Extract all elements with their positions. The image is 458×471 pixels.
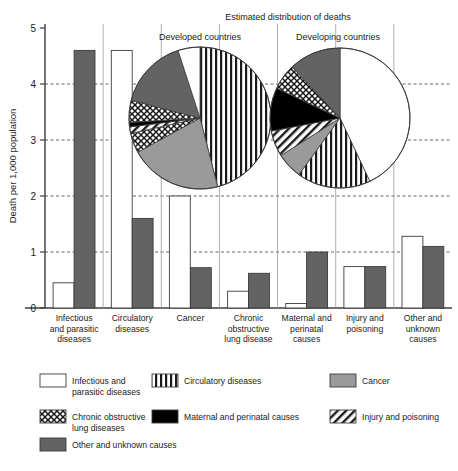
bar-developed [286,304,307,309]
category-label: causes [293,334,320,344]
legend-swatch [40,410,66,423]
legend-label: Cancer [362,376,390,386]
category-label: poisoning [346,324,383,334]
category-label: obstructive [228,324,270,334]
chart-title: Estimated distribution of deaths [225,12,351,22]
legend: Infectious andparasitic diseasesCirculat… [40,374,439,451]
category-label: Cancer [177,313,205,323]
bar-developing [190,268,211,308]
pie-title-developing: Developing countries [296,32,381,42]
category-label: perinatal [290,324,323,334]
category-label: causes [409,334,436,344]
legend-label: Chronic obstructive [72,412,146,422]
category-label: and parasitic [50,324,99,334]
y-tick-label-1: 1 [30,247,36,258]
y-tick-label-4: 4 [30,79,36,90]
bar-developing [423,246,444,308]
bar-developed [402,236,423,308]
bar-developed [111,50,132,308]
category-label: unknown [406,324,441,334]
category-label: Other and [404,313,442,323]
bar-developing [307,252,328,308]
legend-swatch [152,410,178,423]
legend-swatch [330,374,356,387]
category-labels: Infectiousand parasiticdiseasesCirculato… [50,313,442,344]
y-axis-title: Death per 1,000 population [7,109,18,224]
legend-label: lung diseases [72,423,125,433]
legend-swatch [40,374,66,387]
y-tick-label-2: 2 [30,191,36,202]
legend-swatch [152,374,178,387]
y-tick-label-5: 5 [30,23,36,34]
chart-svg: 5 4 3 2 1 0 Death per 1,000 population I… [0,0,458,471]
y-axis-ticks [40,28,45,308]
bar-developing [74,50,95,308]
bar-developing [132,218,153,308]
pie-title-developed: Developed countries [159,32,242,42]
legend-swatch [40,438,66,451]
legend-label: Circulatory diseases [184,376,261,386]
category-label: diseases [115,324,149,334]
legend-label: parasitic diseases [72,387,140,397]
legend-label: Infectious and [72,376,126,386]
chart-figure: 5 4 3 2 1 0 Death per 1,000 population I… [0,0,458,471]
category-label: Chronic [234,313,264,323]
bar-developing [365,267,386,308]
legend-label: Other and unknown causes [72,440,177,450]
bar-developed [228,291,249,308]
category-label: diseases [57,334,91,344]
legend-label: Maternal and perinatal causes [184,412,299,422]
y-tick-label-3: 3 [30,135,36,146]
category-label: Injury and [346,313,384,323]
legend-swatch [330,410,356,423]
category-label: Circulatory [112,313,154,323]
category-label: lung disease [224,334,272,344]
bar-developing [249,273,270,308]
pie-chart-developing [270,48,410,188]
bar-developed [344,267,365,308]
y-tick-label-0: 0 [30,303,36,314]
pie-chart-developed [129,47,271,189]
category-label: Maternal and [282,313,332,323]
bar-developed [53,283,74,308]
bar-developed [169,196,190,308]
legend-label: Injury and poisoning [362,412,439,422]
category-label: Infectious [56,313,93,323]
